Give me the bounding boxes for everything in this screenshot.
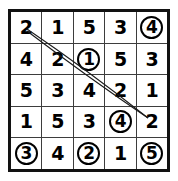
table-row: 4 2 1 [11, 43, 167, 74]
grid-cell-r4c2[interactable]: 5 [42, 106, 73, 137]
grid-cell-value: 1 [83, 51, 94, 68]
grid-cell-r1c3[interactable]: 5 [73, 12, 104, 43]
grid-cell-value: 4 [115, 113, 126, 130]
grid-cell-value: 3 [114, 18, 127, 37]
grid-cell-value: 5 [51, 112, 64, 131]
grid-cell-value: 4 [51, 144, 64, 163]
grid-cell-r2c1[interactable]: 4 [11, 43, 42, 74]
grid-cell-value: 5 [20, 81, 33, 100]
grid-cell-r5c4[interactable]: 1 [105, 138, 136, 169]
grid-cell-r1c1[interactable]: 2 [11, 12, 42, 43]
grid-cell-value: 2 [20, 18, 33, 37]
grid-cell-value: 1 [51, 18, 64, 37]
grid-cell-r3c1[interactable]: 5 [11, 75, 42, 106]
grid-cell-value: 3 [145, 50, 158, 69]
grid-cell-value: 2 [114, 81, 127, 100]
number-grid-puzzle: 2 1 5 3 [0, 0, 178, 181]
grid-cell-r5c3[interactable]: 2 [73, 138, 104, 169]
table-row: 5 3 4 2 [11, 75, 167, 106]
grid-cell-r1c5[interactable]: 4 [136, 12, 167, 43]
grid-cell-r4c5[interactable]: 2 [136, 106, 167, 137]
grid-cell-r4c1[interactable]: 1 [11, 106, 42, 137]
grid-cell-r3c5[interactable]: 1 [136, 75, 167, 106]
grid-cell-value: 5 [146, 145, 157, 162]
grid-cell-value: 2 [83, 145, 94, 162]
grid-cell-value: 1 [145, 81, 158, 100]
grid-cell-value: 1 [20, 112, 33, 131]
grid-cell-value: 3 [83, 112, 96, 131]
grid-cell-value: 5 [114, 50, 127, 69]
grid-cell-value: 3 [21, 145, 32, 162]
grid-cell-r2c4[interactable]: 5 [105, 43, 136, 74]
grid-cell-value: 2 [51, 50, 64, 69]
table-row: 1 5 3 [11, 106, 167, 137]
grid-cell-r4c4[interactable]: 4 [105, 106, 136, 137]
grid-cell-r3c4[interactable]: 2 [105, 75, 136, 106]
grid-cell-value: 4 [20, 50, 33, 69]
grid-cell-r4c3[interactable]: 3 [73, 106, 104, 137]
grid-cell-value: 3 [51, 81, 64, 100]
grid-cell-r5c2[interactable]: 4 [42, 138, 73, 169]
grid-cell-value: 2 [145, 112, 158, 131]
grid-cell-r3c2[interactable]: 3 [42, 75, 73, 106]
puzzle-grid-frame: 2 1 5 3 [8, 9, 170, 172]
grid-cell-value: 4 [146, 19, 157, 36]
puzzle-grid: 2 1 5 3 [11, 12, 167, 169]
grid-cell-r3c3[interactable]: 4 [73, 75, 104, 106]
grid-cell-r2c3[interactable]: 1 [73, 43, 104, 74]
grid-cell-r2c2[interactable]: 2 [42, 43, 73, 74]
grid-cell-value: 5 [83, 18, 96, 37]
table-row: 2 1 5 3 [11, 12, 167, 43]
grid-cell-value: 4 [83, 81, 96, 100]
grid-cell-r5c1[interactable]: 3 [11, 138, 42, 169]
grid-cell-r1c4[interactable]: 3 [105, 12, 136, 43]
grid-cell-r1c2[interactable]: 1 [42, 12, 73, 43]
grid-cell-r5c5[interactable]: 5 [136, 138, 167, 169]
grid-cell-r2c5[interactable]: 3 [136, 43, 167, 74]
grid-cell-value: 1 [114, 144, 127, 163]
table-row: 3 4 2 [11, 138, 167, 169]
